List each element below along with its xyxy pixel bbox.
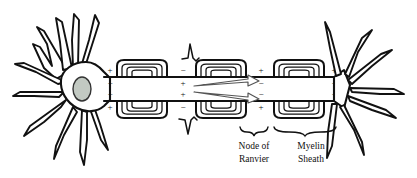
terminal-4 [350,88,404,94]
charge-bottom-inside-2: − [258,89,263,99]
charge-bottom-inside-1: + [180,89,185,99]
charge-top-outside-0: + [107,65,112,75]
myelin-outer-wrap [196,101,246,118]
myelin-outer-wrap [274,60,324,77]
charge-bottom-outside-1: − [180,102,185,112]
myelin-outer-wrap [274,101,324,118]
dendrite-3 [72,14,79,67]
charge-bottom-outside-2: + [258,102,263,112]
myelin-outer-wrap [117,60,167,77]
myelin-segment-top-1 [117,60,167,77]
neuron-diagram: + − + + − + − − − + − − + − + + [0,0,417,178]
myelin-outer-wrap [117,101,167,118]
charge-bottom-outside-0: + [107,102,112,112]
myelin-segment-bottom-1 [117,101,167,118]
myelin-sheath-label-line1: Myelin [297,141,325,151]
myelin-segment-bottom-2 [196,101,246,118]
charge-top-inside-2: − [258,78,263,88]
myelin-segment-top-3 [274,60,324,77]
myelin-sheath-label-line2: Sheath [298,154,324,164]
node-of-ranvier-label-line2: Ranvier [239,154,270,164]
charge-top-inside-1: + [180,78,185,88]
charge-bottom-inside-0: − [107,89,112,99]
nucleus [73,77,91,101]
myelin-outer-wrap [196,60,246,77]
myelin-sheath-bottom-row [117,101,324,118]
neuron-diagram-canvas: + − + + − + − − − + − − + − + + [0,0,417,178]
charge-top-outside-1: − [180,65,185,75]
charge-top-inside-0: − [107,78,112,88]
dendrite-6 [13,92,64,97]
node-of-ranvier-label-line1: Node of [239,141,271,151]
myelin-sheath-top-row [117,60,324,77]
myelin-segment-top-2 [196,60,246,77]
charge-top-outside-2: + [258,65,263,75]
myelin-segment-bottom-3 [274,101,324,118]
